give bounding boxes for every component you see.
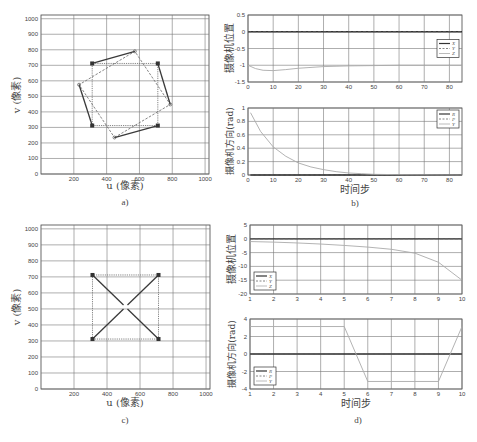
feature-point-marker [156, 61, 160, 65]
y-tick-label: 700 [28, 274, 39, 280]
x-axis-label: 时间步 [341, 397, 371, 409]
x-tick-label: 5 [343, 296, 347, 302]
y-tick-label: 0 [242, 29, 246, 35]
x-axis-label: 时间步 [340, 183, 370, 195]
y-tick-label: -1.5 [235, 79, 246, 85]
y-tick-label: 0 [244, 351, 248, 357]
y-tick-label: 500 [28, 93, 39, 99]
y-tick-label: 700 [28, 62, 39, 68]
y-tick-label: 0.4 [237, 145, 246, 151]
x-tick-label: 2 [272, 391, 276, 397]
x-tick-label: 40 [345, 84, 352, 90]
x-tick-label: 1 [248, 296, 252, 302]
figure-canvas: 2004006008001000010020030040050060070080… [0, 0, 477, 442]
x-tick-label: 4 [319, 391, 323, 397]
caption-c: c) [122, 415, 129, 425]
legend: RPY [437, 110, 459, 128]
y-tick-label: 1000 [25, 226, 39, 232]
legend-entry-Z: Z [269, 284, 272, 289]
panel-b-camera-orientation-plot: 0102030405060708010.80.60.40.20时间步摄像机方向(… [224, 105, 462, 195]
y-tick-label: 800 [28, 258, 39, 264]
x-tick-label: 20 [295, 84, 302, 90]
x-tick-label: 30 [320, 177, 327, 183]
y-tick-label: 5 [244, 222, 248, 228]
feature-point-marker [90, 273, 94, 277]
y-tick-label: 900 [28, 31, 39, 37]
y-tick-label: 0 [35, 171, 39, 177]
feature-point-marker [90, 337, 94, 341]
legend: RPY [254, 367, 276, 385]
panel-b-camera-position-plot: 010203040506070800.50-0.5-1-1.5摄像机位置XYZ [223, 12, 462, 90]
x-tick-label: 7 [390, 296, 394, 302]
x-tick-label: 8 [413, 296, 417, 302]
x-tick-label: 70 [421, 177, 428, 183]
y-tick-label: 0 [244, 236, 248, 242]
feature-point-marker [157, 273, 161, 277]
y-axis-label: 摄像机位置 [225, 234, 237, 284]
x-tick-label: 5 [343, 391, 347, 397]
panel-d-camera-position-plot: 1234567891050-5-10-15-20摄像机位置XYZ [225, 222, 466, 302]
y-tick-label: 600 [28, 290, 39, 296]
x-tick-label: 30 [320, 84, 327, 90]
y-tick-label: 0.8 [237, 118, 246, 124]
y-axis-label: 摄像机方向(rad) [226, 320, 237, 387]
y-tick-label: 0.6 [237, 132, 246, 138]
y-axis-label: v (像素) [10, 77, 22, 115]
y-tick-label: 900 [28, 242, 39, 248]
x-tick-label: 50 [371, 177, 378, 183]
x-tick-label: 2 [272, 296, 276, 302]
x-tick-label: 80 [446, 84, 453, 90]
feature-point-marker [156, 124, 160, 128]
feature-point-marker [90, 61, 94, 65]
y-tick-label: 1000 [25, 16, 39, 22]
panel-c-image-trajectory: 2004006008001000010020030040050060070080… [10, 225, 213, 408]
x-tick-label: 200 [69, 391, 80, 397]
x-tick-label: 0 [246, 84, 250, 90]
x-tick-label: 50 [371, 84, 378, 90]
legend-entry-Z: Z [452, 51, 455, 56]
x-tick-label: 0 [246, 177, 250, 183]
x-axis-label: u (像素) [106, 179, 144, 191]
x-tick-label: 7 [390, 391, 394, 397]
y-tick-label: 100 [28, 155, 39, 161]
caption-a: a) [122, 197, 129, 207]
panel-a-image-trajectory: 2004006008001000010020030040050060070080… [10, 15, 212, 191]
feature-point-marker [90, 124, 94, 128]
y-tick-label: 500 [28, 306, 39, 312]
y-tick-label: -2 [242, 369, 248, 375]
y-tick-label: -0.5 [235, 46, 246, 52]
y-tick-label: 400 [28, 109, 39, 115]
y-tick-label: 0.2 [237, 159, 246, 165]
y-axis-label: 摄像机位置 [223, 23, 235, 73]
y-tick-label: 300 [28, 338, 39, 344]
x-tick-label: 80 [446, 177, 453, 183]
x-tick-label: 6 [366, 296, 370, 302]
x-tick-label: 1000 [198, 176, 212, 182]
x-tick-label: 4 [319, 296, 323, 302]
y-tick-label: 200 [28, 354, 39, 360]
x-tick-label: 10 [270, 177, 277, 183]
y-tick-label: 1 [242, 105, 246, 111]
caption-d: d) [354, 415, 362, 425]
x-tick-label: 10 [459, 296, 466, 302]
x-tick-label: 60 [396, 84, 403, 90]
x-tick-label: 800 [167, 176, 178, 182]
x-axis-label: u (像素) [106, 396, 144, 408]
y-tick-label: 800 [28, 47, 39, 53]
caption-b: b) [351, 198, 359, 208]
x-tick-label: 10 [459, 391, 466, 397]
x-tick-label: 6 [366, 391, 370, 397]
x-tick-label: 200 [69, 176, 80, 182]
x-tick-label: 800 [168, 391, 179, 397]
y-tick-label: 100 [28, 370, 39, 376]
x-tick-label: 8 [413, 391, 417, 397]
y-axis-label: v (像素) [10, 289, 22, 327]
feature-point-marker [157, 337, 161, 341]
y-tick-label: 0 [35, 386, 39, 392]
x-tick-label: 20 [295, 177, 302, 183]
x-tick-label: 1000 [199, 391, 213, 397]
x-tick-label: 9 [437, 296, 441, 302]
y-tick-label: 200 [28, 140, 39, 146]
legend: XYZ [254, 272, 276, 290]
y-tick-label: 0.5 [237, 12, 246, 18]
